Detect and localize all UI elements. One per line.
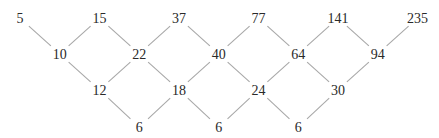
edge xyxy=(148,26,170,46)
node-third-differences: 6 xyxy=(295,120,302,135)
node-third-differences: 6 xyxy=(136,120,143,135)
edge xyxy=(307,26,329,46)
edge xyxy=(188,62,210,82)
edge xyxy=(347,62,369,82)
edge xyxy=(267,98,289,119)
edge xyxy=(307,62,329,82)
edge xyxy=(29,26,51,46)
node-second-differences: 24 xyxy=(252,83,266,98)
node-first-differences: 40 xyxy=(212,47,226,62)
edge xyxy=(228,26,250,46)
difference-table-diagram: 5153777141235102240649412182430666 xyxy=(0,0,439,138)
node-first-differences: 10 xyxy=(53,47,67,62)
edge xyxy=(188,26,210,46)
node-first-differences: 94 xyxy=(371,47,385,62)
nodes: 5153777141235102240649412182430666 xyxy=(17,11,429,135)
edge xyxy=(228,62,250,82)
node-sequence: 77 xyxy=(252,11,266,26)
edge xyxy=(148,62,170,82)
node-second-differences: 18 xyxy=(172,83,186,98)
edge xyxy=(108,62,130,82)
node-sequence: 5 xyxy=(17,11,24,26)
edge xyxy=(108,98,130,119)
edge xyxy=(69,62,91,82)
node-second-differences: 12 xyxy=(93,83,107,98)
edge xyxy=(347,26,369,46)
node-sequence: 141 xyxy=(328,11,349,26)
edge xyxy=(267,26,289,46)
edge xyxy=(69,26,91,46)
edge xyxy=(188,98,210,119)
edge xyxy=(267,62,289,82)
node-second-differences: 30 xyxy=(331,83,345,98)
edges xyxy=(29,26,409,119)
node-sequence: 15 xyxy=(93,11,107,26)
node-sequence: 37 xyxy=(172,11,186,26)
node-third-differences: 6 xyxy=(215,120,222,135)
node-first-differences: 22 xyxy=(132,47,146,62)
edge xyxy=(307,98,329,119)
node-first-differences: 64 xyxy=(291,47,305,62)
edge xyxy=(228,98,250,119)
edge xyxy=(108,26,130,46)
edge xyxy=(148,98,170,119)
node-sequence: 235 xyxy=(407,11,428,26)
edge xyxy=(387,26,409,46)
